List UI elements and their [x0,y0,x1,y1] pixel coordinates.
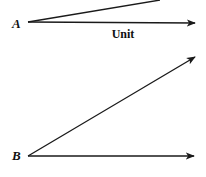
point-b-label: B [11,148,21,163]
unit-label: Unit [112,27,135,41]
figure-a: A Unit [11,0,195,41]
angle-a-upper-ray [28,0,160,22]
angle-diagram: A Unit B [0,0,206,177]
figure-b: B [11,57,195,163]
point-a-label: A [11,16,21,31]
angle-b-upper-arrow [28,57,195,156]
unit-arrow [28,22,195,23]
